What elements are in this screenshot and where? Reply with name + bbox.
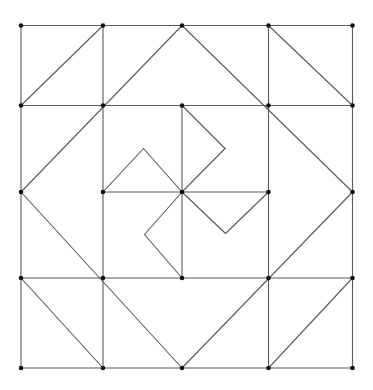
vertex-point <box>180 103 185 108</box>
vertex-point <box>350 23 355 28</box>
diag-topleft-cell-line <box>21 26 103 106</box>
vertex-point <box>19 103 24 108</box>
vertex-point <box>101 276 106 281</box>
quilt-diagram <box>0 0 373 390</box>
pinwheel-right-b-line <box>226 192 269 234</box>
vertex-point <box>19 276 24 281</box>
vertex-point <box>101 103 106 108</box>
vertex-point <box>350 276 355 281</box>
vertex-point <box>350 103 355 108</box>
diamond-upper-right-line <box>182 26 353 193</box>
vertex-point <box>266 103 271 108</box>
vertex-point <box>19 190 24 195</box>
diamond-lower-right-line <box>182 192 353 368</box>
pinwheel-top-a-line <box>182 106 225 149</box>
vertex-point <box>180 190 185 195</box>
line-segments <box>21 26 353 369</box>
pinwheel-top-b-line <box>182 149 225 193</box>
vertex-point <box>101 366 106 371</box>
pinwheel-left-a-line <box>103 149 144 193</box>
vertex-point <box>350 190 355 195</box>
vertex-point <box>101 23 106 28</box>
vertex-point <box>350 366 355 371</box>
vertex-point <box>266 190 271 195</box>
pinwheel-right-a-line <box>182 192 226 234</box>
pinwheel-left-b-line <box>144 149 183 193</box>
diamond-lower-left-line <box>21 192 182 368</box>
diamond-upper-left-line <box>21 26 182 193</box>
diag-topright-cell-line <box>269 26 353 106</box>
vertex-point <box>266 276 271 281</box>
diag-bottomright-cell-line <box>269 278 353 368</box>
diag-bottomleft-cell-line <box>21 278 103 368</box>
vertex-point <box>101 190 106 195</box>
pinwheel-bottom-b-line <box>145 235 183 279</box>
vertex-point <box>266 366 271 371</box>
vertex-point <box>180 366 185 371</box>
vertex-point <box>266 23 271 28</box>
vertex-point <box>19 23 24 28</box>
vertex-point <box>19 366 24 371</box>
pinwheel-bottom-a-line <box>145 192 183 235</box>
vertex-point <box>180 276 185 281</box>
vertex-point <box>180 23 185 28</box>
